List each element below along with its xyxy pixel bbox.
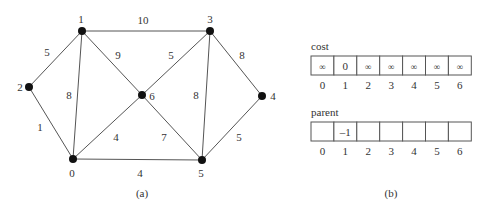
cost-cell-3: [380, 56, 403, 75]
edge-3-5: [202, 31, 210, 160]
graph-caption: (a): [136, 187, 149, 200]
cost-index-1: 1: [343, 79, 349, 91]
parent-index-3: 3: [388, 145, 394, 157]
cost-cell-5: [426, 56, 449, 75]
edge-1-6: [82, 31, 142, 95]
node-1: [78, 27, 86, 35]
parent-cell-2: [357, 122, 380, 141]
cost-array: cost ∞0∞∞∞∞∞ 0123456: [311, 40, 471, 91]
parent-indices: 0123456: [320, 145, 463, 157]
edge-1-0: [73, 31, 82, 159]
node-4: [258, 92, 266, 100]
cost-value-6: ∞: [457, 62, 463, 72]
cost-cell-2: [357, 56, 380, 75]
edge-weight-2-0: 1: [37, 121, 43, 133]
cost-cell-1: [334, 56, 357, 75]
edge-weight-3-5: 8: [193, 89, 199, 101]
edge-weight-4-5: 5: [236, 131, 242, 143]
weighted-graph: 1058915884754 0123456 (a): [0, 0, 280, 211]
edge-weight-1-2: 5: [44, 46, 50, 58]
parent-cell-4: [403, 122, 426, 141]
cost-index-5: 5: [434, 79, 440, 91]
edge-3-4: [210, 31, 262, 96]
edge-weight-1-6: 9: [115, 49, 121, 61]
cost-value-2: ∞: [365, 62, 371, 72]
edge-weight-0-5: 4: [137, 167, 143, 179]
cost-cell-0: [311, 56, 334, 75]
node-2: [25, 83, 33, 91]
parent-index-2: 2: [366, 145, 372, 157]
node-label-5: 5: [198, 167, 204, 179]
node-labels-layer: 0123456: [17, 13, 276, 179]
parent-cell-1: [334, 122, 357, 141]
edge-weight-6-0: 4: [113, 131, 119, 143]
node-3: [206, 27, 214, 35]
cost-index-2: 2: [366, 79, 372, 91]
edge-3-6: [142, 31, 210, 95]
edge-0-5: [73, 159, 202, 160]
cost-index-3: 3: [388, 79, 394, 91]
cost-value-3: ∞: [388, 62, 394, 72]
node-label-2: 2: [17, 81, 23, 93]
cost-value-0: ∞: [319, 62, 325, 72]
cost-index-0: 0: [320, 79, 326, 91]
parent-array-label: parent: [311, 106, 338, 118]
cost-array-label: cost: [311, 40, 329, 52]
parent-index-4: 4: [411, 145, 417, 157]
edge-6-5: [142, 95, 202, 160]
cost-indices: 0123456: [320, 79, 463, 91]
edge-6-0: [73, 95, 142, 159]
cost-value-5: ∞: [434, 62, 440, 72]
arrays-caption: (b): [385, 187, 398, 200]
parent-cell-6: [448, 122, 471, 141]
parent-index-0: 0: [320, 145, 326, 157]
parent-array: parent –1 0123456: [311, 106, 471, 157]
cost-cell-4: [403, 56, 426, 75]
cost-cell-6: [448, 56, 471, 75]
parent-value-1: –1: [339, 126, 351, 138]
node-label-1: 1: [78, 13, 84, 25]
parent-index-5: 5: [434, 145, 440, 157]
edge-4-5: [202, 96, 262, 160]
cost-value-1: 0: [343, 60, 349, 72]
edge-weight-3-4: 8: [239, 49, 245, 61]
cost-index-4: 4: [411, 79, 417, 91]
node-label-3: 3: [207, 13, 213, 25]
parent-cell-0: [311, 122, 334, 141]
edge-1-2: [29, 31, 82, 87]
parent-cells: –1: [311, 122, 471, 141]
edge-weight-1-3: 10: [138, 14, 150, 26]
cost-cells: ∞0∞∞∞∞∞: [311, 56, 471, 75]
node-label-6: 6: [149, 90, 155, 102]
cost-index-6: 6: [457, 79, 463, 91]
node-label-0: 0: [69, 167, 75, 179]
figure: 1058915884754 0123456 (a) cost ∞0∞∞∞∞∞ 0…: [0, 0, 482, 211]
nodes-layer: [25, 27, 266, 164]
parent-index-1: 1: [343, 145, 349, 157]
node-label-4: 4: [270, 90, 276, 102]
node-5: [198, 156, 206, 164]
parent-cell-5: [426, 122, 449, 141]
parent-cell-3: [380, 122, 403, 141]
edge-weight-6-5: 7: [161, 131, 167, 143]
cost-value-4: ∞: [411, 62, 417, 72]
edge-weight-1-0: 8: [66, 89, 72, 101]
parent-index-6: 6: [457, 145, 463, 157]
node-6: [138, 91, 146, 99]
node-0: [69, 155, 77, 163]
edge-weight-3-6: 5: [168, 49, 174, 61]
